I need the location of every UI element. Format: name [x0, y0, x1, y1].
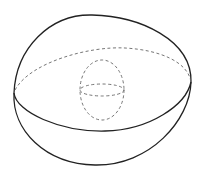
outer-contour [14, 15, 191, 165]
inner-vertical-ellipse [80, 60, 124, 120]
equator-front [14, 82, 191, 131]
inner-equator-ellipse [80, 84, 124, 96]
diagram-svg [0, 0, 201, 174]
ellipsoid-diagram [0, 0, 201, 174]
